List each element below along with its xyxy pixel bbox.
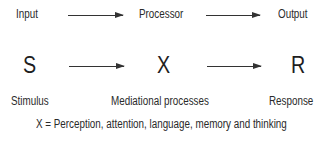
input-to-processor-arrow-icon <box>68 15 123 16</box>
mediation-to-response-arrow-icon <box>207 66 261 67</box>
stimulus-to-mediation-arrow-icon <box>69 66 124 67</box>
mediation-symbol: X <box>157 51 170 79</box>
response-symbol: R <box>291 51 305 79</box>
output-label: Output <box>278 7 308 21</box>
response-label: Response <box>269 94 313 108</box>
stimulus-label: Stimulus <box>11 94 49 108</box>
processor-label: Processor <box>139 7 183 21</box>
mediation-definition-footnote: X = Perception, attention, language, mem… <box>36 117 287 131</box>
processor-to-output-arrow-icon <box>206 15 260 16</box>
input-label: Input <box>16 7 38 21</box>
mediational-processes-label: Mediational processes <box>111 94 209 108</box>
stimulus-symbol: S <box>23 51 36 79</box>
